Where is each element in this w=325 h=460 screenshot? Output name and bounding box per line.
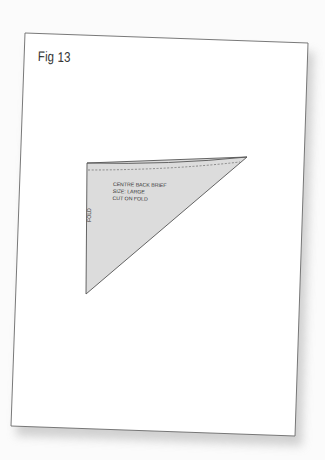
pattern-piece-label: CENTRE BACK BRIEF SIZE: LARGE CUT ON FOL… [113,181,167,203]
paper-sheet [0,0,325,460]
figure-title: Fig 13 [38,48,71,65]
paper [11,33,308,436]
fold-label: FOLD [86,208,92,222]
piece-instruction: CUT ON FOLD [113,195,167,203]
document-stage: Fig 13 CENTRE BACK BRIEF SIZE: LARGE CUT… [0,0,325,460]
